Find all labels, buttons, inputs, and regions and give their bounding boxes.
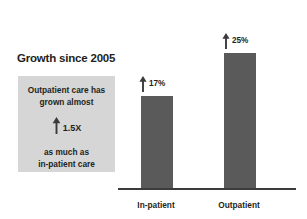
callout-multiplier-row: 1.5X (18, 117, 115, 138)
bar-value-outpatient: 25% (232, 36, 248, 46)
callout-box: Outpatient care has grown almost 1.5X as… (18, 76, 115, 172)
page-title: Growth since 2005 (17, 52, 115, 64)
x-tick-label-inpatient: In-patient (126, 200, 186, 210)
bar-outpatient (224, 53, 256, 188)
callout-multiplier-value: 1.5X (63, 123, 82, 133)
bar-inpatient (141, 96, 173, 188)
bar-marker-inpatient: 17% (139, 76, 165, 92)
bar-marker-outpatient: 25% (222, 33, 248, 49)
up-arrow-icon (139, 76, 147, 92)
annotation-panel: Growth since 2005 Outpatient care has gr… (0, 0, 122, 219)
x-axis-line (118, 188, 296, 190)
growth-bar-chart-figure: Growth since 2005 Outpatient care has gr… (0, 0, 307, 219)
callout-line-4: in-patient care (18, 159, 115, 171)
callout-line-2: grown almost (18, 97, 115, 109)
x-tick-label-outpatient: Outpatient (209, 200, 269, 210)
bar-value-inpatient: 17% (149, 79, 165, 89)
up-arrow-icon (222, 33, 230, 49)
up-arrow-icon (52, 117, 61, 138)
callout-line-1: Outpatient care has (18, 85, 115, 97)
plot-area: 17% In-patient 25% Outpatient (118, 0, 307, 219)
callout-line-3: as much as (18, 147, 115, 159)
